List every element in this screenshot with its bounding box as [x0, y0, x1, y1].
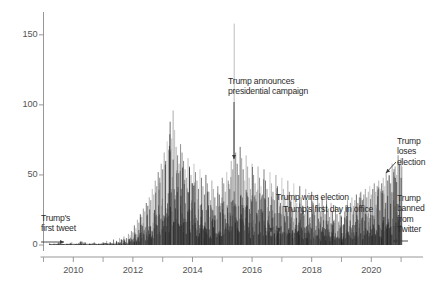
x-axis-tick-label: 2016	[228, 265, 276, 275]
arrow-trump-announces-presidential-campaign	[232, 102, 236, 159]
arrow-trumps-first-tweet	[41, 240, 64, 244]
x-axis-tick-label: 2014	[168, 265, 216, 275]
x-axis-tick-label: 2010	[49, 265, 97, 275]
chart-canvas	[0, 0, 445, 286]
x-axis-tick-label: 2018	[288, 265, 336, 275]
y-axis-tick-label: 0	[2, 239, 38, 249]
annotation-trumps-first-tweet: Trump's first tweet	[41, 213, 76, 234]
annotation-trump-loses-election: Trump loses election	[397, 136, 425, 167]
annotation-trump-banned-from-twitter: Trump banned from Twitter	[397, 193, 425, 235]
annotation-trump-wins-election: Trump wins election	[276, 192, 349, 202]
annotation-trump-announces-presidential-campaign: Trump announces presidential campaign	[228, 76, 308, 97]
y-axis-tick-label: 100	[2, 99, 38, 109]
arrow-trump-loses-election	[386, 162, 396, 173]
y-axis-tick-label: 50	[2, 169, 38, 179]
x-axis-tick-label: 2012	[109, 265, 157, 275]
annotation-trumps-first-day-in-office: Trump's first day in office	[283, 204, 373, 214]
y-axis-tick-label: 150	[2, 29, 38, 39]
tweets-per-day-chart: 050100150201020122014201620182020Trump's…	[0, 0, 445, 286]
x-axis-tick-label: 2020	[347, 265, 395, 275]
